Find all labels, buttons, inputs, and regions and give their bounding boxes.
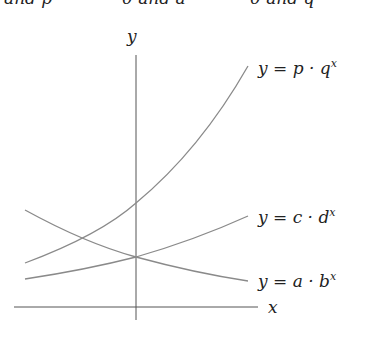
y-axis-label: y <box>127 26 137 46</box>
label-a-b: y = a · bx <box>258 270 336 291</box>
diagram: and p 0 and a 0 and q y x y = p · qx y =… <box>0 0 367 338</box>
x-axis-label: x <box>268 297 278 317</box>
label-p-q: y = p · qx <box>258 57 337 78</box>
label-c-d: y = c · dx <box>258 206 336 227</box>
